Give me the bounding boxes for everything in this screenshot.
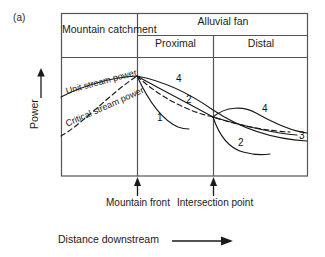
curve-label-2-proximal: 2	[186, 94, 192, 105]
curve-3-distal	[213, 117, 297, 135]
x-axis-group: Distance downstream	[58, 232, 248, 250]
curve-2-distal	[213, 117, 270, 155]
axis-tick-arrows	[134, 177, 217, 196]
header-alluvial-fan: Alluvial fan	[138, 16, 308, 28]
caption-mountain-front: Mountain front	[102, 197, 174, 209]
header-distal: Distal	[214, 38, 308, 50]
caption-intersection-point: Intersection point	[177, 197, 251, 209]
curve-label-3-distal: 3	[299, 130, 305, 141]
x-axis-label: Distance downstream	[58, 233, 159, 245]
curve-label-1-proximal: 1	[157, 112, 163, 123]
tick-arrow-intersection-point	[210, 177, 217, 196]
tick-arrow-mountain-front	[134, 177, 141, 196]
x-axis-arrow-icon	[172, 235, 234, 247]
curve-label-4-proximal: 4	[176, 73, 182, 84]
header-mountain-catchment: Mountain catchment	[62, 24, 137, 36]
header-proximal: Proximal	[138, 38, 213, 50]
curves-group	[61, 76, 307, 155]
curve-label-4-distal: 4	[262, 103, 268, 114]
figure-container: (a) Power	[0, 0, 325, 257]
curve-label-2-distal: 2	[238, 137, 244, 148]
